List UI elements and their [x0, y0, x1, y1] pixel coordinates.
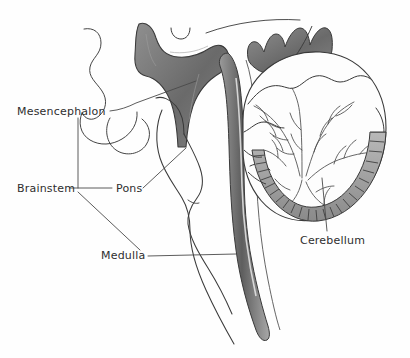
leader-pons — [143, 148, 186, 188]
brainstem-anterior-border — [157, 110, 234, 344]
leader-medulla — [148, 254, 236, 256]
temporal-pole-outline — [107, 118, 150, 154]
mammillary-notch — [171, 28, 190, 39]
figure-canvas: Mesencephalon Brainstem Pons Medulla Cer… — [0, 0, 410, 358]
label-mesencephalon: Mesencephalon — [17, 106, 106, 117]
pons-medulla-posterior-border — [184, 134, 232, 314]
label-medulla: Medulla — [101, 250, 145, 261]
label-cerebellum: Cerebellum — [300, 235, 365, 246]
brain-anatomy-illustration — [0, 0, 410, 358]
pontomedullary-notch — [188, 200, 199, 203]
superior-arc — [206, 20, 300, 33]
label-pons: Pons — [116, 183, 142, 194]
label-brainstem: Brainstem — [17, 183, 75, 194]
bracket-diagonal-medulla — [78, 192, 140, 250]
cerebellum-body — [243, 52, 386, 221]
